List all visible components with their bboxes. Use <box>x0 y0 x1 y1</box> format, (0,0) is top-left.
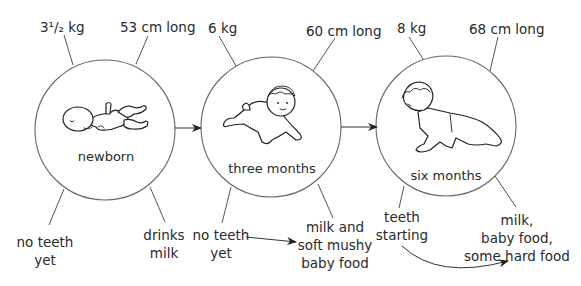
food-label-three-months-line1: milk and <box>306 219 364 235</box>
length-label-three-months: 60 cm long <box>306 23 381 39</box>
leader-newborn-food <box>150 187 165 222</box>
stage-name-six-months: six months <box>410 168 481 183</box>
stage-name-newborn: newborn <box>78 149 134 164</box>
weight-label-six-months: 8 kg <box>397 20 426 36</box>
food-label-newborn-line2: milk <box>150 245 179 261</box>
leader-3m-length <box>313 38 335 71</box>
leader-newborn-teeth <box>49 189 64 225</box>
leader-newborn-length <box>136 36 148 64</box>
leader-3m-teeth <box>222 187 231 223</box>
arrow-teeth-to-food-three-months <box>246 237 296 242</box>
teeth-label-six-months-line1: teeth <box>384 209 420 225</box>
teeth-label-newborn-line2: yet <box>34 252 56 268</box>
leader-6m-weight <box>409 37 425 62</box>
food-label-six-months-line2: baby food, <box>481 230 553 246</box>
teeth-label-six-months-line2: starting <box>376 227 428 243</box>
weight-label-newborn: 3¹/₂ kg <box>40 19 85 35</box>
weight-label-three-months: 6 kg <box>208 20 237 36</box>
leader-3m-food <box>318 184 333 218</box>
leader-6m-length <box>490 37 498 71</box>
food-label-three-months-line3: baby food <box>301 255 369 271</box>
food-label-newborn-line1: drinks <box>143 227 184 243</box>
stage-name-three-months: three months <box>228 161 316 176</box>
length-label-newborn: 53 cm long <box>120 19 195 35</box>
leader-6m-food <box>495 176 516 207</box>
length-label-six-months: 68 cm long <box>469 21 544 37</box>
food-label-three-months-line2: soft mushy <box>298 237 373 253</box>
leader-6m-teeth <box>399 186 404 208</box>
teeth-label-newborn-line1: no teeth <box>17 234 74 250</box>
food-label-six-months-line1: milk, <box>501 212 534 228</box>
teeth-label-three-months-line2: yet <box>210 245 232 261</box>
food-label-six-months-line3: some hard food <box>464 248 570 264</box>
growth-diagram: newborn three months six months 3¹/₂ kg … <box>0 0 581 286</box>
teeth-label-three-months-line1: no teeth <box>193 227 250 243</box>
leader-3m-weight <box>219 36 236 66</box>
leader-newborn-weight <box>64 35 73 65</box>
